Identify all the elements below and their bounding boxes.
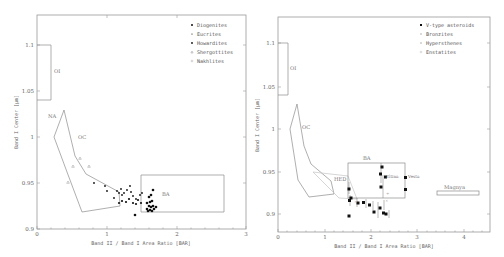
right-legend: V-type asteroids Bronzites Hypersthenes …: [420, 22, 474, 55]
left-ytick-label: 1: [31, 134, 35, 140]
legend-label: V-type asteroids: [426, 22, 474, 29]
right-ytick-label: 1.05: [263, 84, 276, 90]
vtype-asteroid-points: Eltina Vesta: [348, 163, 420, 218]
legend-label: Howardites: [197, 40, 227, 46]
right-y-axis-label: Band I Center [μm]: [254, 98, 261, 152]
region-label-na: NA: [48, 113, 57, 119]
region-label-magnya: Magnya: [444, 184, 465, 191]
legend-label: Eucrites: [197, 31, 221, 37]
right-xtick-label: 0: [276, 234, 280, 240]
left-ytick-label: 0.95: [22, 180, 35, 186]
right-plot: 0 1 2 3 4 0.9 0.95 1 1.05 1.1 Band II / …: [254, 17, 490, 249]
region-label-hed: HED: [334, 176, 346, 182]
right-xtick-label: 1: [323, 234, 327, 240]
left-xtick-label: 3: [244, 231, 248, 237]
legend-label: Shergottites: [197, 49, 233, 56]
right-ytick-label: 1.1: [266, 40, 275, 46]
region-ba: [348, 163, 405, 198]
right-xtick-label: 4: [462, 234, 466, 240]
right-x-ticks: [278, 229, 482, 232]
meteorite-points: [93, 182, 157, 216]
region-oi: [37, 45, 51, 100]
figure: 0 1 2 3 0.9 0.95 1 1.05 1.1 Band II / Ba…: [0, 0, 504, 257]
left-y-axis-label: Band I Center [μm]: [13, 95, 20, 149]
left-ytick-label: 0.9: [25, 226, 34, 232]
left-xtick-label: 1: [105, 231, 109, 237]
svg-text:×: ×: [385, 198, 388, 203]
right-x-axis-label: Band II / Band I Area Ratio [BAR]: [334, 243, 433, 249]
right-xtick-label: 3: [415, 234, 419, 240]
region-magnya: [437, 191, 479, 195]
legend-label: Nakhlites: [197, 58, 224, 64]
svg-text:×: ×: [354, 199, 357, 204]
point-label-eltina: Eltina: [386, 174, 399, 179]
shergottites-points: [67, 157, 91, 183]
right-ytick-label: 0.95: [263, 169, 276, 175]
right-xtick-label: 2: [369, 234, 373, 240]
point-label-vesta: Vesta: [407, 174, 420, 179]
region-label-ba: BA: [363, 155, 371, 161]
region-label-oi: OI: [54, 68, 60, 74]
left-x-axis-label: Band II / Band I Area Ratio [BAR]: [91, 240, 190, 246]
left-xtick-label: 0: [35, 231, 39, 237]
legend-label: Diogenites: [197, 22, 227, 29]
region-label-oi: OI: [290, 65, 296, 71]
legend-label: Hypersthenes: [426, 40, 462, 47]
left-xtick-label: 2: [175, 231, 179, 237]
legend-label: Bronzites: [426, 31, 453, 37]
left-plot-frame: [37, 15, 246, 229]
left-legend: Diogenites Eucrites Howardites Shergotti…: [191, 22, 233, 64]
right-ytick-label: 0.9: [266, 211, 275, 217]
left-y-ticks: [37, 45, 246, 229]
region-label-oc: OC: [78, 134, 86, 140]
right-ytick-label: 1: [272, 126, 276, 132]
region-label-oc: OC: [302, 124, 310, 130]
legend-label: Enstatites: [426, 49, 456, 55]
svg-text:+: +: [386, 191, 389, 196]
left-x-ticks: [37, 15, 246, 229]
left-ytick-label: 1.1: [25, 42, 34, 48]
left-plot: 0 1 2 3 0.9 0.95 1 1.05 1.1 Band II / Ba…: [13, 15, 248, 246]
left-ytick-label: 1.05: [22, 88, 35, 94]
region-oc: [54, 110, 120, 212]
region-oc: [290, 104, 334, 197]
region-label-ba: BA: [162, 191, 170, 197]
